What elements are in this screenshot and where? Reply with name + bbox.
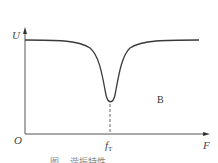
- resonance-frequency-subscript: T: [108, 145, 112, 153]
- plot-canvas: [0, 0, 218, 163]
- x-axis-label: F: [203, 140, 210, 151]
- y-axis-arrow-icon: [23, 27, 27, 34]
- region-label-b: B: [157, 95, 164, 105]
- figure-caption: 图 ... 谐振特性: [50, 158, 106, 163]
- resonance-frequency-label: fT: [105, 140, 112, 153]
- response-curve: [25, 40, 199, 102]
- x-axis-arrow-icon: [203, 132, 210, 136]
- origin-label: O: [14, 135, 22, 146]
- notch-response-diagram: U O F fT B 图 ... 谐振特性: [0, 0, 218, 163]
- y-axis-label: U: [12, 30, 20, 41]
